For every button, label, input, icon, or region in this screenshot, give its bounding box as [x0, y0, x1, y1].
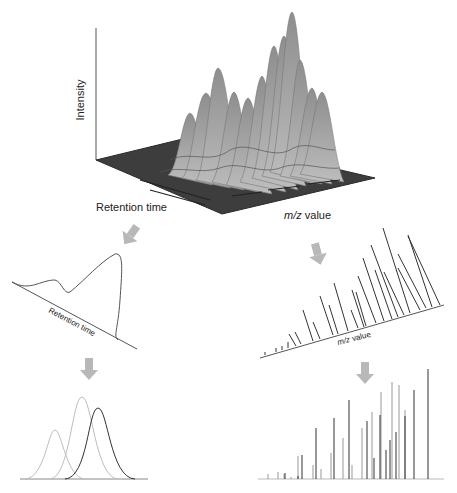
- chromatogram-trace: [12, 254, 122, 340]
- mz-axis-label: m/z value: [284, 209, 331, 221]
- mass-spectrum: m/z value: [260, 228, 444, 358]
- arrow-to-deconvolved-peaks: [80, 358, 98, 380]
- spectrum-axis-label: m/z value: [336, 330, 372, 347]
- arrow-to-chromatogram: [117, 221, 144, 249]
- 3d-surface-plot: Intensity: [74, 12, 375, 221]
- deconvolved-chromatographic-peaks: [20, 397, 148, 479]
- lc-ms-deconvolution-diagram: Intensity: [0, 0, 457, 493]
- deconvolved-mass-spectrum: [258, 369, 444, 479]
- peak-3: [65, 408, 135, 479]
- intensity-axis-label: Intensity: [74, 79, 86, 120]
- retention-time-axis-label: Retention time: [96, 201, 167, 213]
- arrow-to-deconvolved-spectrum: [356, 362, 374, 384]
- chromatogram: Retention time: [12, 254, 137, 349]
- chromatogram-axis-label: Retention time: [47, 306, 97, 338]
- arrow-to-spectrum: [306, 241, 329, 267]
